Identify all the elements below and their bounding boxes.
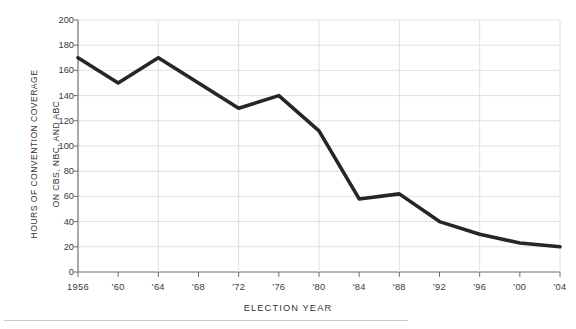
- x-axis-tick-label: '60: [95, 282, 141, 292]
- footer-divider: [4, 320, 408, 321]
- x-axis-tick-label: '64: [135, 282, 181, 292]
- x-axis-tick-label: '76: [256, 282, 302, 292]
- x-axis-tick-label: '84: [336, 282, 382, 292]
- chart-figure: HOURS OF CONVENTION COVERAGE ON CBS, NBC…: [0, 0, 576, 329]
- x-axis-tick-label: 1956: [55, 282, 101, 292]
- x-axis-tick-label: '72: [216, 282, 262, 292]
- axis-ticks: [74, 20, 561, 277]
- x-axis-tick-label: '68: [176, 282, 222, 292]
- x-axis-tick-label: '92: [417, 282, 463, 292]
- x-axis-tick-label: '96: [457, 282, 503, 292]
- x-axis-tick-label: '00: [497, 282, 543, 292]
- x-axis-tick-label: '80: [296, 282, 342, 292]
- x-axis-tick-label: '88: [376, 282, 422, 292]
- x-axis-title: ELECTION YEAR: [0, 303, 576, 313]
- chart-plot-area: [0, 0, 576, 329]
- x-axis-tick-label: '04: [537, 282, 576, 292]
